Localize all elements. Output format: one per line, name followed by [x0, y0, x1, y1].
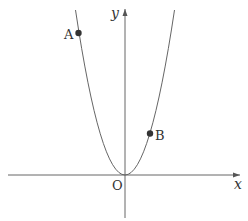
point-a — [75, 30, 81, 36]
x-axis-label: x — [234, 176, 242, 192]
y-axis-label: y — [110, 5, 120, 21]
graph-canvas: A B y x O — [0, 0, 248, 221]
point-b-label: B — [155, 128, 165, 143]
point-b — [147, 130, 153, 136]
point-a-label: A — [63, 27, 74, 42]
origin-label: O — [112, 178, 123, 193]
